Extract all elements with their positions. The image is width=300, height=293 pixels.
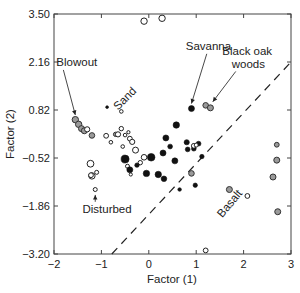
data-point [194,143,198,147]
data-point [141,18,147,24]
data-point [203,248,208,253]
data-point [172,158,178,164]
data-point [115,132,120,137]
data-point [133,147,139,153]
data-point [185,147,190,152]
data-point [89,133,95,139]
series-outliers-top [141,15,165,24]
annotation-disturbed: Disturbed [82,203,131,215]
data-point [161,176,167,182]
data-point [163,135,169,141]
arrowhead-icon [213,97,217,102]
data-point [178,188,182,192]
series-sand-filled [106,106,178,182]
data-point [95,170,99,174]
data-point [160,150,166,156]
y-tick-label: 0.82 [29,104,50,116]
data-point [270,174,276,180]
data-point [89,173,94,178]
annotation-black-oak: Black oak [222,45,272,57]
annotation-blowout: Blowout [56,56,98,68]
y-tick-label: 2.16 [29,56,50,68]
series-savanna [163,106,204,192]
y-tick-label: 3.50 [29,8,50,20]
annotation-woods: woods [231,58,265,70]
data-point [104,133,109,138]
data-point [141,154,147,160]
arrow-line [213,71,236,101]
data-point [109,140,113,144]
data-point [85,127,90,132]
annotation-sand: Sand [111,85,138,112]
data-point [189,171,195,177]
y-tick-label: −1.86 [22,200,50,212]
data-point [207,105,213,111]
scatter-chart: −2−101233.502.160.82−0.52−1.86−3.20 Blow… [0,0,300,293]
data-point [155,171,161,177]
x-tick-label: 1 [193,258,199,270]
data-point [121,145,125,149]
data-point [274,157,280,163]
data-point [93,188,97,192]
y-axis-title: Factor (2) [4,109,16,159]
x-axis-title: Factor (1) [147,273,197,285]
data-point [245,194,250,199]
series-sand [120,110,147,176]
data-point [147,153,155,161]
arrowhead-icon [93,195,97,200]
series-disturbed [87,160,99,191]
y-tick-label: −3.20 [22,248,50,260]
data-point [173,122,179,128]
series-savanna-open [191,143,198,148]
data-point [184,140,189,145]
arrow-line [191,54,206,104]
data-point [121,155,129,163]
data-point [119,126,123,130]
arrow-line [63,70,75,115]
data-point [188,106,194,112]
data-point [274,142,279,147]
data-point [129,173,132,176]
data-point [200,154,204,158]
data-point [106,106,109,109]
x-tick-label: −1 [95,258,108,270]
series-blowout [72,116,118,138]
series-black-oak-woods [203,103,214,111]
series-savanna-gray [189,171,195,177]
data-point [87,160,94,167]
data-point [168,144,173,149]
y-tick-label: −0.52 [22,152,50,164]
data-point [135,163,139,167]
data-point [159,15,165,21]
data-point [143,170,149,176]
data-point [193,183,197,187]
data-point [127,167,133,173]
x-tick-label: 2 [241,258,247,270]
data-point [275,209,281,215]
data-point [127,131,130,134]
arrowhead-icon [72,110,76,115]
x-tick-label: 0 [146,258,152,270]
data-point [130,139,135,144]
data-point [123,133,127,137]
x-tick-label: 3 [288,258,294,270]
